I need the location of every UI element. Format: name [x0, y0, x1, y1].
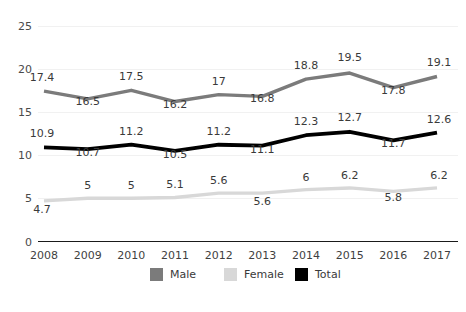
legend-item-female[interactable]: Female: [224, 268, 284, 281]
legend-label-male: Male: [170, 268, 196, 281]
line-chart: 0510152025 20082009201020112012201320142…: [0, 0, 466, 312]
y-tick-label: 15: [18, 106, 32, 119]
data-label-male: 18.8: [294, 59, 319, 72]
x-tick-label: 2010: [117, 249, 145, 262]
legend-item-male[interactable]: Male: [150, 268, 196, 281]
data-label-total: 11.7: [381, 137, 406, 150]
chart-plot-area: 0510152025 20082009201020112012201320142…: [0, 0, 466, 312]
x-tick-label: 2009: [74, 249, 102, 262]
data-label-total: 10.7: [75, 146, 100, 159]
data-label-total: 12.7: [337, 111, 362, 124]
x-axis-tick-labels: 2008200920102011201220132014201520162017: [30, 249, 451, 262]
data-label-female: 6.2: [341, 169, 359, 182]
data-label-male: 17.4: [30, 71, 55, 84]
data-label-female: 6.2: [430, 169, 448, 182]
x-tick-label: 2011: [161, 249, 189, 262]
legend-item-total[interactable]: Total: [295, 268, 341, 281]
x-tick-label: 2016: [379, 249, 407, 262]
data-label-female: 5.1: [166, 178, 184, 191]
data-label-male: 17: [212, 75, 226, 88]
x-tick-label: 2013: [248, 249, 276, 262]
data-label-female: 5.8: [385, 191, 403, 204]
data-label-female: 6: [303, 171, 310, 184]
series-lines-group: [44, 73, 437, 201]
legend-swatch-male: [150, 268, 163, 281]
legend-label-total: Total: [314, 268, 341, 281]
data-label-total: 11.2: [206, 125, 231, 138]
data-label-male: 19.5: [337, 51, 362, 64]
y-tick-label: 0: [25, 236, 32, 249]
data-label-female: 4.7: [33, 203, 51, 216]
x-tick-label: 2008: [30, 249, 58, 262]
data-label-female: 5.6: [254, 195, 272, 208]
data-label-total: 11.2: [119, 125, 144, 138]
data-label-male: 17.8: [381, 84, 406, 97]
gridlines-group: [38, 27, 458, 199]
x-tick-label: 2012: [205, 249, 233, 262]
data-label-total: 10.9: [30, 127, 55, 140]
data-labels-group: 17.416.517.516.21716.818.819.517.819.14.…: [30, 51, 452, 216]
y-tick-label: 5: [25, 192, 32, 205]
series-line-total: [44, 132, 437, 151]
data-label-total: 12.3: [294, 115, 319, 128]
data-label-female: 5: [128, 179, 135, 192]
series-line-male: [44, 73, 437, 102]
data-label-total: 11.1: [250, 143, 275, 156]
chart-legend: MaleFemaleTotal: [150, 268, 341, 281]
data-label-male: 16.8: [250, 92, 275, 105]
x-tick-label: 2014: [292, 249, 320, 262]
data-label-male: 16.5: [75, 95, 100, 108]
y-tick-label: 10: [18, 149, 32, 162]
data-label-male: 17.5: [119, 70, 144, 83]
legend-label-female: Female: [244, 268, 284, 281]
data-label-female: 5.6: [210, 174, 228, 187]
y-tick-label: 25: [18, 20, 32, 33]
legend-swatch-total: [295, 268, 308, 281]
data-label-male: 16.2: [163, 98, 188, 111]
data-label-female: 5: [84, 179, 91, 192]
data-label-total: 12.6: [427, 113, 452, 126]
x-tick-label: 2017: [423, 249, 451, 262]
x-tick-label: 2015: [336, 249, 364, 262]
data-label-total: 10.5: [163, 148, 188, 161]
legend-swatch-female: [224, 268, 237, 281]
data-label-male: 19.1: [427, 56, 452, 69]
